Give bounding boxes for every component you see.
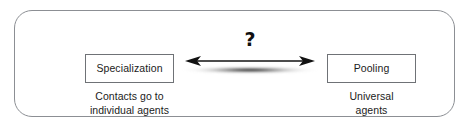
pooling-caption-line-2: agents [301,104,442,118]
specialization-caption-line-2: individual agents [59,104,200,118]
pooling-box-label: Pooling [354,63,390,74]
pooling-caption-line-1: Universal [301,90,442,104]
specialization-box-label: Specialization [96,63,162,74]
pooling-box[interactable]: Pooling [327,54,416,83]
pooling-caption: Universal agents [301,90,442,117]
specialization-box[interactable]: Specialization [85,54,174,83]
outer-frame: Specialization Pooling Contacts go to in… [14,10,455,117]
diagram-canvas: Specialization Pooling Contacts go to in… [0,0,468,127]
specialization-caption-line-1: Contacts go to [59,90,200,104]
specialization-caption: Contacts go to individual agents [59,90,200,117]
double-headed-arrow-icon [179,49,321,73]
question-mark-annotation: ? [225,28,275,50]
